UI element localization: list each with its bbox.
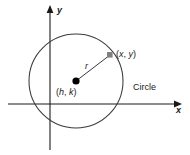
y-axis-label: y xyxy=(57,6,62,15)
filled-square-marker xyxy=(107,52,113,58)
center-point-label: (h, k) xyxy=(56,88,77,97)
arrowhead-up-icon xyxy=(47,5,54,13)
paren-close: ) xyxy=(74,87,77,97)
diagram-canvas xyxy=(0,0,190,155)
paren-close: ) xyxy=(133,49,136,59)
radius-label: r xyxy=(85,62,88,71)
circle-label: Circle xyxy=(133,83,156,92)
filled-dot-marker xyxy=(72,77,79,84)
radius-segment xyxy=(76,55,110,81)
point-on-circle-label: (x, y) xyxy=(116,50,136,59)
circle-diagram: y x (x, y) (h, k) r Circle xyxy=(0,0,190,155)
x-axis-label: x xyxy=(176,106,181,115)
